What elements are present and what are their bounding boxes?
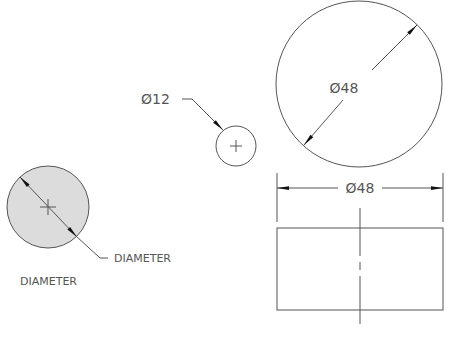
diameter-arrow	[304, 100, 343, 145]
diameter-caption: DIAMETER	[20, 275, 77, 288]
small-circle-dimension: Ø12	[141, 91, 170, 107]
drawing-canvas: DIAMETER DIAMETER Ø12 Ø48 Ø48	[0, 0, 454, 342]
leader-line	[77, 237, 108, 258]
large-circle-view: Ø48	[276, 1, 442, 167]
diameter-leader-label: DIAMETER	[114, 252, 171, 265]
diameter-arrow	[372, 25, 417, 70]
side-view-dimension: Ø48	[346, 180, 375, 196]
shaded-diameter-circle: DIAMETER DIAMETER	[7, 166, 171, 288]
leader-line	[182, 99, 223, 130]
side-view: Ø48	[277, 173, 443, 330]
small-circle-callout: Ø12	[141, 91, 256, 166]
large-circle-dimension: Ø48	[330, 80, 359, 96]
